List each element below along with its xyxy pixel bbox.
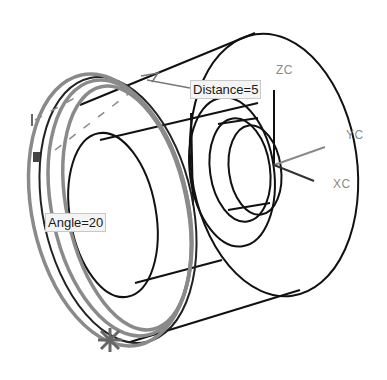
graphics-viewport[interactable]: Distance=5 Angle=20 ZC YC XC bbox=[0, 0, 387, 380]
preview-rings bbox=[5, 59, 215, 361]
angle-dimension-label[interactable]: Angle=20 bbox=[45, 213, 106, 232]
angle-handle bbox=[33, 152, 40, 162]
distance-leader bbox=[141, 73, 190, 88]
xc-axis-label: XC bbox=[333, 177, 351, 191]
model-geometry bbox=[0, 0, 387, 380]
yc-axis-label: YC bbox=[346, 128, 364, 142]
snap-point-icon bbox=[98, 328, 122, 352]
distance-dimension-label[interactable]: Distance=5 bbox=[190, 80, 261, 99]
wcs-triad bbox=[274, 90, 325, 181]
zc-axis-label: ZC bbox=[276, 63, 293, 77]
